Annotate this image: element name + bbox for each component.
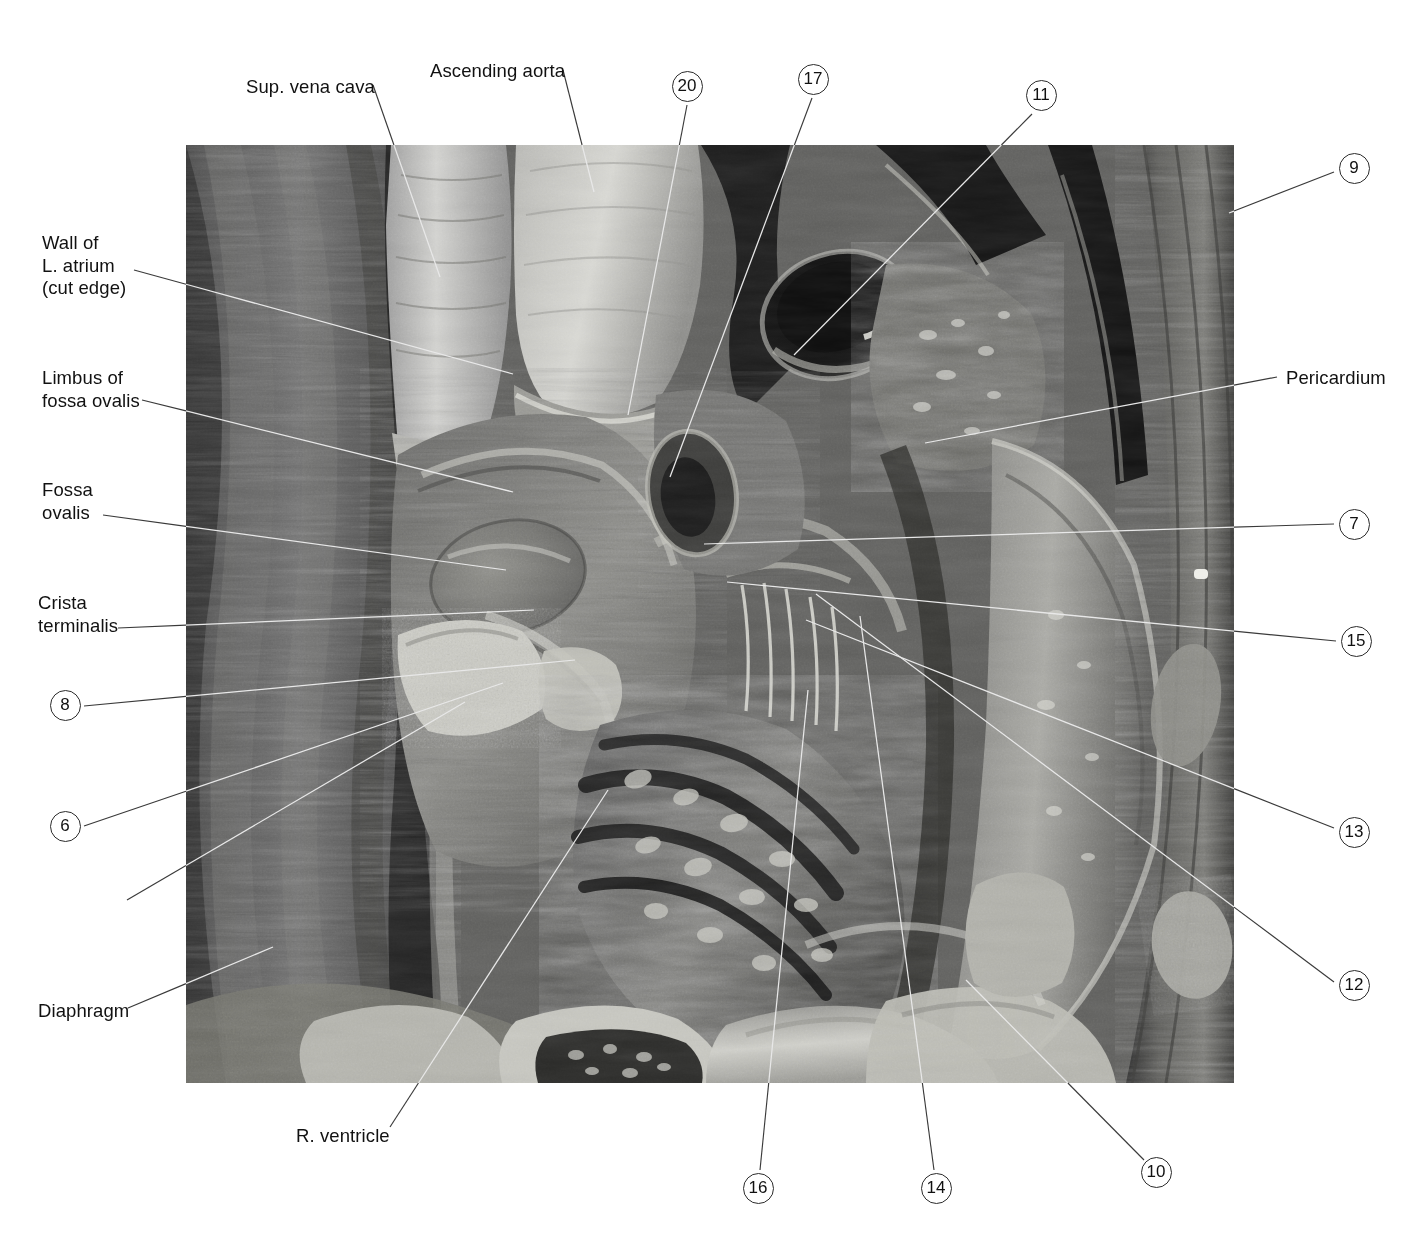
callout-9: 9 [1339, 153, 1370, 184]
leader-ascending-aorta-outer [563, 70, 582, 145]
label-wall-of-l-atrium: Wall ofL. atrium(cut edge) [42, 232, 126, 300]
leader-diaphragm-outer [128, 984, 186, 1008]
label-limbus-fossa-ovalis: Limbus offossa ovalis [42, 367, 140, 412]
label-crista-terminalis: Cristaterminalis [38, 592, 118, 637]
callout-8: 8 [50, 690, 81, 721]
label-line: Limbus of [42, 367, 140, 390]
label-r-ventricle: R. ventricle [296, 1125, 390, 1148]
label-line: Crista [38, 592, 118, 615]
callout-16: 16 [743, 1173, 774, 1204]
leader-pericardium-outer [1234, 377, 1277, 385]
leader-12-outer [1234, 907, 1334, 982]
label-line: R. ventricle [296, 1125, 390, 1148]
leader-fossa-ovalis-outer [103, 515, 186, 526]
callout-number: 15 [1347, 631, 1366, 651]
label-line: fossa ovalis [42, 390, 140, 413]
label-sup-vena-cava: Sup. vena cava [246, 76, 375, 99]
label-line: Sup. vena cava [246, 76, 375, 99]
anatomical-dissection-photograph [186, 145, 1234, 1083]
label-ascending-aorta: Ascending aorta [430, 60, 565, 83]
leader-r-ventricle-outer [390, 1083, 418, 1127]
label-line: Diaphragm [38, 1000, 129, 1023]
callout-number: 12 [1345, 975, 1364, 995]
callout-6: 6 [50, 811, 81, 842]
callout-15: 15 [1341, 626, 1372, 657]
callout-17: 17 [798, 64, 829, 95]
callout-number: 16 [749, 1178, 768, 1198]
leader-wall-l-atrium-outer [134, 270, 186, 284]
label-line: Wall of [42, 232, 126, 255]
callout-number: 13 [1345, 822, 1364, 842]
leader-13-outer [1234, 789, 1334, 828]
label-line: terminalis [38, 615, 118, 638]
label-pericardium: Pericardium [1286, 367, 1386, 390]
callout-12: 12 [1339, 970, 1370, 1001]
callout-number: 8 [60, 695, 69, 715]
leader-sup-vena-cava-outer [373, 85, 394, 145]
leader-16-outer [760, 1083, 769, 1170]
leader-10-outer [1068, 1083, 1144, 1160]
callout-13: 13 [1339, 817, 1370, 848]
label-line: Ascending aorta [430, 60, 565, 83]
label-line: L. atrium [42, 255, 126, 278]
callout-number: 14 [927, 1178, 946, 1198]
leader-15-outer [1234, 631, 1336, 641]
callout-number: 9 [1349, 158, 1358, 178]
label-line: ovalis [42, 502, 93, 525]
callout-number: 11 [1032, 85, 1050, 105]
callout-7: 7 [1339, 509, 1370, 540]
label-fossa-ovalis: Fossaovalis [42, 479, 93, 524]
leader-8-outer [84, 696, 186, 706]
label-line: Fossa [42, 479, 93, 502]
leader-6-outer [84, 791, 186, 826]
plate-canvas: Sup. vena cava Ascending aorta Wall ofL.… [0, 0, 1418, 1245]
leader-valve-ivc-outer [127, 865, 186, 900]
callout-number: 17 [804, 69, 823, 89]
callout-number: 10 [1147, 1162, 1166, 1182]
callout-20: 20 [672, 71, 703, 102]
callout-number: 6 [60, 816, 69, 836]
leader-20-outer [679, 105, 687, 145]
photo-content [186, 145, 1234, 1083]
leader-crista-outer [118, 625, 186, 628]
leader-17-outer [794, 98, 812, 145]
leader-11-outer [1001, 114, 1032, 145]
leader-14-outer [922, 1083, 934, 1170]
callout-number: 7 [1349, 514, 1358, 534]
label-diaphragm: Diaphragm [38, 1000, 129, 1023]
callout-10: 10 [1141, 1157, 1172, 1188]
label-line: (cut edge) [42, 277, 126, 300]
label-line: Pericardium [1286, 367, 1386, 390]
callout-11: 11 [1026, 80, 1057, 111]
leader-7-outer [1234, 524, 1334, 527]
leader-limbus-outer [142, 400, 186, 411]
callout-14: 14 [921, 1173, 952, 1204]
callout-number: 20 [678, 76, 697, 96]
leader-9-outer [1234, 172, 1334, 211]
